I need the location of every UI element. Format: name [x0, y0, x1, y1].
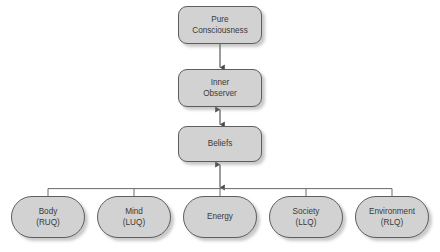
node-environment: Environment (RLQ) [355, 196, 429, 238]
node-mind-line2: (LUQ) [123, 218, 145, 228]
node-inner-observer-line2: Observer [203, 89, 237, 99]
node-body-line1: Body [39, 207, 58, 217]
node-beliefs-line1: Beliefs [208, 139, 233, 149]
node-pure-consciousness-line2: Consciousness [192, 26, 248, 36]
node-mind: Mind (LUQ) [97, 196, 171, 238]
node-society: Society (LLQ) [269, 196, 343, 238]
node-pure-consciousness-line1: Pure [211, 15, 228, 25]
node-energy: Energy [183, 196, 257, 238]
node-society-line1: Society [293, 207, 320, 217]
node-environment-line1: Environment [369, 207, 415, 217]
node-beliefs: Beliefs [178, 126, 262, 162]
node-body-line2: (RUQ) [36, 218, 60, 228]
node-society-line2: (LLQ) [296, 218, 317, 228]
node-energy-line1: Energy [207, 212, 233, 222]
node-body: Body (RUQ) [11, 196, 85, 238]
node-inner-observer: Inner Observer [178, 69, 262, 107]
diagram-canvas: Pure Consciousness Inner Observer Belief… [0, 0, 440, 252]
node-environment-line2: (RLQ) [381, 218, 403, 228]
node-mind-line1: Mind [125, 207, 143, 217]
node-inner-observer-line1: Inner [211, 78, 230, 88]
node-pure-consciousness: Pure Consciousness [178, 6, 262, 44]
